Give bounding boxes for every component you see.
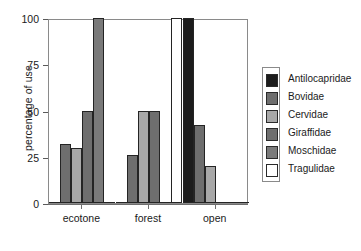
y-tick-label: 100 [21, 13, 39, 25]
y-tick-label: 0 [33, 198, 39, 210]
bar-bovidae-open [194, 125, 205, 203]
bar-antilocapridae-ecotone [49, 202, 60, 203]
legend-label-bovidae: Bovidae [262, 88, 361, 106]
legend-label-moschidae: Moschidae [262, 142, 361, 160]
bars-container [49, 20, 247, 203]
legend-label-tragulidae: Tragulidae [262, 160, 361, 178]
bar-tragulidae-ecotone [104, 202, 115, 203]
bar-antilocapridae-open [183, 18, 194, 203]
y-axis-ticks: 0255075100 [0, 0, 48, 251]
legend-label-cervidae: Cervidae [262, 106, 361, 124]
x-tick-mark [148, 204, 149, 209]
bar-moschidae-ecotone [93, 18, 104, 203]
bar-antilocapridae-forest [116, 202, 127, 203]
x-tick-mark [215, 204, 216, 209]
bar-bovidae-forest [127, 155, 138, 203]
bar-cervidae-forest [138, 111, 149, 204]
plot-area [48, 19, 248, 204]
bar-giraffidae-forest [149, 111, 160, 204]
bar-chart-figure: percentage of use 0255075100 Antilocapri… [0, 0, 361, 251]
bar-cervidae-ecotone [71, 148, 82, 204]
y-tick-label: 50 [27, 106, 39, 118]
bar-giraffidae-open [216, 202, 227, 203]
x-tick-label-ecotone: ecotone [63, 212, 100, 224]
bar-moschidae-open [227, 202, 238, 203]
legend-label-antilocapridae: Antilocapridae [262, 70, 361, 88]
bar-cervidae-open [205, 166, 216, 203]
y-tick-label: 25 [27, 152, 39, 164]
legend-label-giraffidae: Giraffidae [262, 124, 361, 142]
bar-giraffidae-ecotone [82, 111, 93, 204]
bar-tragulidae-forest [171, 18, 182, 203]
bar-moschidae-forest [160, 202, 171, 203]
legend-labels: AntilocapridaeBovidaeCervidaeGiraffidaeM… [262, 67, 361, 182]
x-tick-mark [81, 204, 82, 209]
x-tick-label-forest: forest [135, 212, 161, 224]
x-tick-label-open: open [203, 212, 226, 224]
y-tick-label: 75 [27, 59, 39, 71]
bar-tragulidae-open [238, 202, 249, 203]
bar-bovidae-ecotone [60, 144, 71, 203]
